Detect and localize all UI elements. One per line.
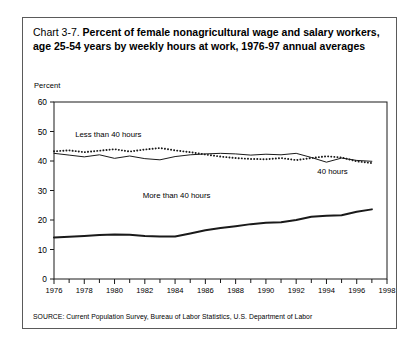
y-tick-label: 60	[38, 97, 48, 107]
x-tick-label: 1980	[106, 286, 123, 295]
x-tick-label: 1976	[46, 286, 63, 295]
line-chart-svg: 0102030405060 19761978198019821984198619…	[23, 18, 398, 330]
y-tick-label: 10	[38, 245, 48, 255]
y-tick-label: 50	[38, 127, 48, 137]
y-tick-label: 30	[38, 186, 48, 196]
series-annotations: Less than 40 hours40 hoursMore than 40 h…	[75, 130, 348, 200]
y-tick-label: 20	[38, 215, 48, 225]
series-label-0: Less than 40 hours	[75, 130, 141, 139]
series-line-1	[54, 153, 372, 162]
data-series-group	[54, 148, 372, 237]
x-tick-label: 1992	[288, 286, 305, 295]
source-note: SOURCE: Current Population Survey, Burea…	[33, 313, 312, 320]
plot-frame	[54, 102, 387, 279]
x-tick-label: 1996	[348, 286, 365, 295]
x-tick-label: 1978	[76, 286, 93, 295]
series-label-1: 40 hours	[317, 167, 347, 176]
x-tick-label: 1998	[379, 286, 396, 295]
series-line-2	[54, 209, 372, 237]
series-label-2: More than 40 hours	[143, 191, 211, 200]
x-axis-ticks: 1976197819801982198419861988199019921994…	[46, 279, 396, 295]
x-tick-label: 1994	[318, 286, 335, 295]
plot-area: 0102030405060 19761978198019821984198619…	[23, 18, 398, 330]
x-tick-label: 1982	[136, 286, 153, 295]
y-tick-label: 0	[42, 274, 47, 284]
x-tick-label: 1990	[257, 286, 274, 295]
x-tick-label: 1984	[167, 286, 184, 295]
y-tick-label: 40	[38, 156, 48, 166]
chart-figure: Chart 3-7. Percent of female nonagricult…	[22, 17, 397, 329]
x-tick-label: 1988	[227, 286, 244, 295]
y-axis-ticks: 0102030405060	[38, 97, 54, 284]
x-tick-label: 1986	[197, 286, 214, 295]
